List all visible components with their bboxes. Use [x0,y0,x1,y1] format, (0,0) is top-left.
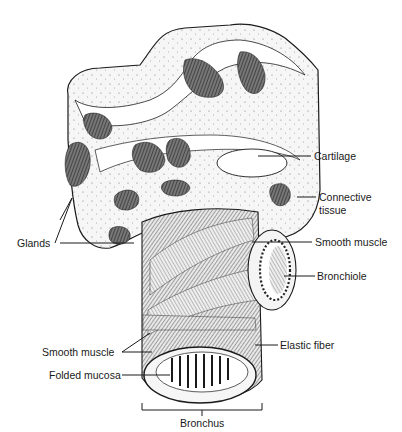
label-folded-mucosa: Folded mucosa [49,369,121,381]
label-smooth-muscle-left: Smooth muscle [42,346,114,358]
cartilage-plate [217,149,287,177]
label-elastic-fiber: Elastic fiber [280,339,334,351]
bronchus-diagram: Cartilage Connective tissue Glands Smoot… [0,0,402,432]
label-connective-tissue-line2: tissue [319,204,346,216]
label-bronchus: Bronchus [180,417,224,429]
label-cartilage: Cartilage [314,150,356,162]
label-connective-tissue-line1: Connective [319,191,372,203]
label-glands: Glands [17,237,50,249]
bronchus-illustration [0,0,402,432]
label-bronchiole: Bronchiole [317,270,367,282]
label-smooth-muscle-right: Smooth muscle [315,236,387,248]
